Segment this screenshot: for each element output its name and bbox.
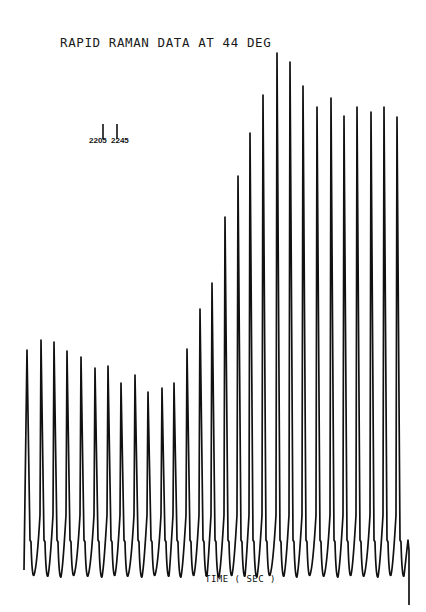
- raman-trace: [24, 53, 409, 605]
- marker-label-2205: 2205: [89, 136, 107, 145]
- spectrum-trace-plot: [0, 0, 426, 612]
- x-axis-label: TIME ( SEC ): [205, 574, 276, 584]
- marker-label-2245: 2245: [111, 136, 129, 145]
